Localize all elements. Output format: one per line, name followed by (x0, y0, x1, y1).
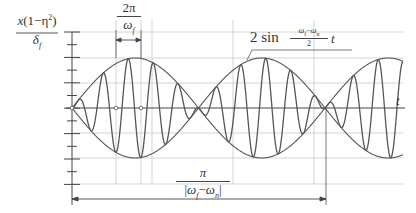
envelope-label-fraction: ωf−ωn 2 (290, 27, 328, 49)
carrier-period-numerator: 2π (117, 1, 141, 15)
envelope-label-suffix: t (331, 31, 335, 47)
envelope-label: 2 sin (250, 29, 279, 46)
y-axis-label-denominator: δf (14, 33, 60, 50)
beat-period-label: π |ωf−ωn| (176, 166, 230, 201)
carrier-period-label: 2π ωf (117, 1, 141, 36)
t-axis-label: t (396, 93, 400, 109)
y-axis-label-numerator: x(1−η2) (14, 14, 60, 29)
y-axis-label: x(1−η2) δf (14, 14, 60, 50)
beat-period-denominator: |ωf−ωn| (176, 183, 230, 200)
carrier-period-denominator: ωf (117, 18, 141, 35)
period-dimension (116, 38, 141, 42)
beat-period-numerator: π (176, 166, 230, 180)
envelope-label-prefix: 2 sin (250, 29, 279, 45)
beat-diagram: x(1−η2) δf 2π ωf 2 sin ωf−ωn 2 t t π |ωf… (0, 0, 416, 213)
